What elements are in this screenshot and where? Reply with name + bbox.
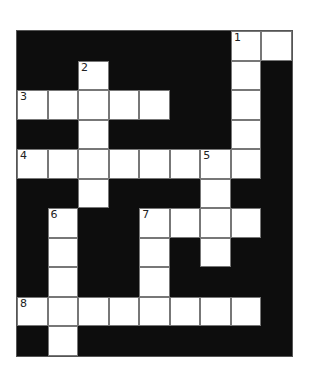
blocked-cell — [109, 179, 140, 209]
crossword-cell[interactable]: 3 — [17, 90, 48, 120]
blocked-cell — [231, 238, 262, 268]
blocked-cell — [109, 238, 140, 268]
crossword-cell[interactable] — [109, 149, 140, 179]
blocked-cell — [109, 31, 140, 61]
blocked-cell — [109, 326, 140, 356]
blocked-cell — [139, 61, 170, 91]
crossword-cell[interactable] — [48, 149, 79, 179]
crossword-cell[interactable] — [78, 179, 109, 209]
crossword-cell[interactable] — [231, 120, 262, 150]
crossword-cell[interactable] — [231, 90, 262, 120]
crossword-grid: 12345678 — [16, 30, 293, 357]
crossword-cell[interactable] — [109, 90, 140, 120]
blocked-cell — [139, 31, 170, 61]
blocked-cell — [261, 326, 292, 356]
clue-number: 6 — [51, 209, 58, 221]
crossword-cell[interactable] — [78, 90, 109, 120]
crossword-cell[interactable] — [231, 149, 262, 179]
crossword-cell[interactable] — [48, 90, 79, 120]
crossword-cell[interactable]: 2 — [78, 61, 109, 91]
blocked-cell — [48, 61, 79, 91]
blocked-cell — [170, 90, 201, 120]
blocked-cell — [170, 326, 201, 356]
blocked-cell — [231, 179, 262, 209]
blocked-cell — [48, 120, 79, 150]
clue-number: 5 — [203, 150, 210, 162]
crossword-cell[interactable] — [231, 208, 262, 238]
blocked-cell — [78, 31, 109, 61]
crossword-cell[interactable] — [200, 208, 231, 238]
crossword-cell[interactable] — [200, 238, 231, 268]
crossword-cell[interactable]: 7 — [139, 208, 170, 238]
blocked-cell — [261, 149, 292, 179]
blocked-cell — [17, 61, 48, 91]
blocked-cell — [200, 61, 231, 91]
crossword-cell[interactable]: 6 — [48, 208, 79, 238]
crossword-cell[interactable] — [170, 149, 201, 179]
crossword-cell[interactable] — [200, 297, 231, 327]
blocked-cell — [231, 326, 262, 356]
clue-number: 2 — [81, 62, 88, 74]
crossword-cell[interactable] — [139, 267, 170, 297]
blocked-cell — [109, 267, 140, 297]
blocked-cell — [109, 120, 140, 150]
blocked-cell — [261, 238, 292, 268]
clue-number: 3 — [20, 91, 27, 103]
blocked-cell — [139, 179, 170, 209]
crossword-cell[interactable] — [170, 208, 201, 238]
blocked-cell — [170, 61, 201, 91]
crossword-cell[interactable] — [78, 149, 109, 179]
crossword-cell[interactable] — [48, 267, 79, 297]
crossword-cell[interactable] — [200, 179, 231, 209]
crossword-cell[interactable]: 8 — [17, 297, 48, 327]
crossword-cell[interactable] — [109, 297, 140, 327]
crossword-cell[interactable] — [78, 297, 109, 327]
blocked-cell — [261, 179, 292, 209]
blocked-cell — [200, 120, 231, 150]
crossword-cell[interactable]: 5 — [200, 149, 231, 179]
blocked-cell — [261, 61, 292, 91]
blocked-cell — [17, 208, 48, 238]
blocked-cell — [170, 179, 201, 209]
clue-number: 7 — [142, 209, 149, 221]
crossword-cell[interactable] — [139, 238, 170, 268]
crossword-cell[interactable] — [170, 297, 201, 327]
blocked-cell — [200, 90, 231, 120]
blocked-cell — [78, 267, 109, 297]
blocked-cell — [17, 267, 48, 297]
clue-number: 1 — [234, 32, 241, 44]
crossword-cell[interactable]: 4 — [17, 149, 48, 179]
crossword-cell[interactable] — [231, 61, 262, 91]
blocked-cell — [48, 31, 79, 61]
crossword-cell[interactable]: 1 — [231, 31, 262, 61]
crossword-cell[interactable] — [139, 90, 170, 120]
blocked-cell — [17, 120, 48, 150]
blocked-cell — [261, 90, 292, 120]
blocked-cell — [261, 267, 292, 297]
blocked-cell — [17, 179, 48, 209]
blocked-cell — [109, 61, 140, 91]
blocked-cell — [109, 208, 140, 238]
blocked-cell — [78, 326, 109, 356]
blocked-cell — [200, 267, 231, 297]
blocked-cell — [231, 267, 262, 297]
crossword-cell[interactable] — [139, 149, 170, 179]
blocked-cell — [78, 238, 109, 268]
crossword-cell[interactable] — [48, 297, 79, 327]
blocked-cell — [170, 120, 201, 150]
crossword-cell[interactable] — [48, 238, 79, 268]
clue-number: 8 — [20, 298, 27, 310]
crossword-cell[interactable] — [139, 297, 170, 327]
blocked-cell — [139, 326, 170, 356]
blocked-cell — [261, 208, 292, 238]
crossword-cell[interactable] — [78, 120, 109, 150]
blocked-cell — [170, 267, 201, 297]
blocked-cell — [261, 297, 292, 327]
crossword-cell[interactable] — [231, 297, 262, 327]
blocked-cell — [78, 208, 109, 238]
blocked-cell — [170, 238, 201, 268]
blocked-cell — [139, 120, 170, 150]
crossword-cell[interactable] — [48, 326, 79, 356]
crossword-cell[interactable] — [261, 31, 292, 61]
blocked-cell — [170, 31, 201, 61]
